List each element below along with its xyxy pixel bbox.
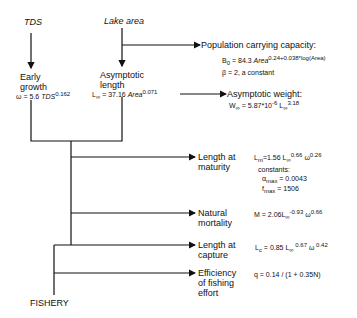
node-asymptotic-weight: Asymptotic weight:: [227, 89, 302, 99]
node-fishery: FISHERY: [30, 298, 69, 308]
node-early-growth: Early growth: [20, 72, 47, 92]
formula-m: M = 2.06L∞-0.93 ω0.66: [254, 210, 322, 219]
formula-b0: B0 = 84.3 Area0.24+0.038*log(Area): [222, 56, 326, 65]
constants-label: constants:: [258, 165, 290, 174]
node-efficiency: Efficiencyof fishingeffort: [198, 268, 236, 298]
input-lake-area: Lake area: [104, 16, 144, 26]
formula-beta: β = 2, a constant: [222, 68, 274, 77]
formula-omega: ω = 5.6 TDS0.162: [16, 92, 70, 101]
formula-q: q = 0.14 / (1 + 0.35N): [254, 270, 321, 279]
node-population-capacity: Population carrying capacity:: [201, 40, 316, 50]
formula-l-c: Lc = 0.85 L∞ 0.67 ω 0.42: [255, 243, 328, 252]
formula-f-max: fmax = 1506: [262, 184, 299, 193]
formula-l-inf: L∞ = 37.16 Area0.071: [92, 90, 157, 99]
node-length-capture: Length atcapture: [198, 240, 236, 260]
formula-l-m: Lm=1.56 L∞0.66 ω0.26: [254, 153, 322, 162]
node-length-maturity: Length atmaturity: [198, 152, 236, 172]
input-tds: TDS: [24, 17, 42, 27]
formula-w-inf: W∞ = 5.87*10-6 L∞3.18: [229, 101, 299, 110]
bracket-growth-length: [31, 97, 122, 141]
node-asymptotic-length: Asymptotic length: [100, 70, 144, 90]
node-natural-mortality: Naturalmortality: [198, 208, 232, 228]
formula-alpha-max: αmax = 0.0043: [262, 174, 307, 183]
